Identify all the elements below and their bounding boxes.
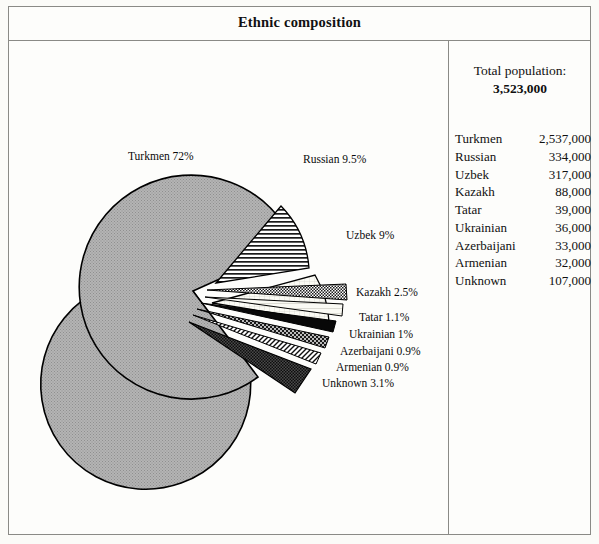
pie-label-uzbek: Uzbek 9% (346, 230, 394, 242)
total-population-block: Total population: 3,523,000 (449, 63, 591, 97)
pie-label-kazakh: Kazakh 2.5% (356, 287, 418, 299)
ethnic-value: 36,000 (528, 220, 591, 238)
table-row: Armenian 32,000 (455, 255, 591, 273)
page-title: Ethnic composition (9, 14, 590, 31)
pie-label-russian: Russian 9.5% (303, 154, 366, 166)
ethnic-value: 334,000 (528, 149, 591, 167)
pie-label-ukrainian: Ukrainian 1% (349, 329, 413, 341)
table-row: Turkmen 2,537,000 (455, 131, 591, 149)
ethnic-name: Ukrainian (455, 220, 528, 238)
pie-label-turkmen: Turkmen 72% (128, 151, 194, 163)
chart-page: Ethnic composition (0, 0, 599, 544)
total-population-label: Total population: (449, 63, 591, 80)
table-row: Azerbaijani 33,000 (455, 238, 591, 256)
ethnic-name: Unknown (455, 273, 528, 291)
statistics-panel: Total population: 3,523,000 Turkmen 2,53… (449, 41, 591, 534)
ethnic-name: Azerbaijani (455, 238, 528, 256)
pie-chart: Turkmen 72% Russian 9.5% Uzbek 9% Kazakh… (9, 41, 448, 534)
ethnic-name: Tatar (455, 202, 528, 220)
ethnic-population-table: Turkmen 2,537,000 Russian 334,000 Uzbek … (455, 131, 591, 291)
table-row: Ukrainian 36,000 (455, 220, 591, 238)
ethnic-value: 2,537,000 (528, 131, 591, 149)
pie-label-armenian: Armenian 0.9% (336, 362, 409, 374)
ethnic-value: 32,000 (528, 255, 591, 273)
pie-label-unknown: Unknown 3.1% (322, 378, 394, 390)
pie-label-azerbaijani: Azerbaijani 0.9% (340, 346, 420, 358)
ethnic-table-body: Turkmen 2,537,000 Russian 334,000 Uzbek … (455, 131, 591, 291)
table-row: Kazakh 88,000 (455, 184, 591, 202)
total-population-value: 3,523,000 (449, 80, 591, 98)
ethnic-value: 88,000 (528, 184, 591, 202)
ethnic-value: 33,000 (528, 238, 591, 256)
ethnic-value: 317,000 (528, 167, 591, 185)
ethnic-name: Russian (455, 149, 528, 167)
table-row: Uzbek 317,000 (455, 167, 591, 185)
table-row: Russian 334,000 (455, 149, 591, 167)
table-row: Tatar 39,000 (455, 202, 591, 220)
ethnic-name: Armenian (455, 255, 528, 273)
pie-label-tatar: Tatar 1.1% (359, 312, 409, 324)
ethnic-value: 107,000 (528, 273, 591, 291)
ethnic-name: Uzbek (455, 167, 528, 185)
ethnic-name: Turkmen (455, 131, 528, 149)
table-row: Unknown 107,000 (455, 273, 591, 291)
ethnic-value: 39,000 (528, 202, 591, 220)
ethnic-name: Kazakh (455, 184, 528, 202)
